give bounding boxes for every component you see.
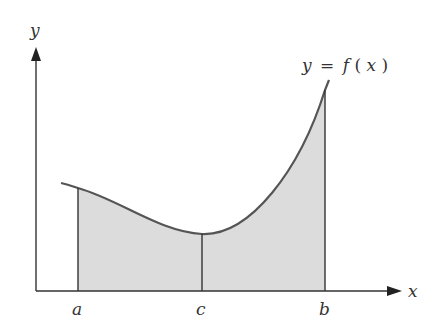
point-label-c: c xyxy=(196,299,206,319)
point-label-b: b xyxy=(319,299,330,319)
y-axis-label: y xyxy=(29,20,40,40)
point-label-a: a xyxy=(72,299,82,319)
area-under-curve-diagram: y x a c b y = f ( x ) xyxy=(0,0,440,330)
y-axis-arrow-icon xyxy=(31,47,41,61)
curve-label: y = f ( x ) xyxy=(301,55,388,75)
x-axis-label: x xyxy=(408,281,418,301)
x-axis-arrow-icon xyxy=(387,286,402,296)
